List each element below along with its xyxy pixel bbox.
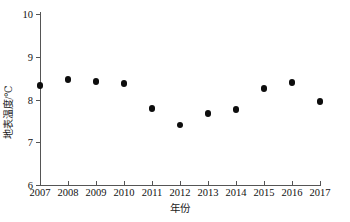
y-tick-label: 10 bbox=[0, 9, 33, 20]
data-point bbox=[261, 85, 267, 91]
x-tick-label: 2007 bbox=[30, 187, 51, 198]
plot-area bbox=[40, 14, 320, 185]
x-tick-label: 2017 bbox=[310, 187, 331, 198]
y-tick bbox=[36, 185, 40, 186]
surface-temperature-scatter-chart: 678910 200720082009201020112012201320142… bbox=[0, 0, 350, 222]
x-tick-label: 2010 bbox=[114, 187, 135, 198]
data-point bbox=[37, 82, 43, 88]
x-tick-label: 2008 bbox=[58, 187, 79, 198]
data-point bbox=[233, 106, 239, 112]
x-tick-label: 2011 bbox=[142, 187, 163, 198]
x-axis-title: 年份 bbox=[0, 200, 350, 215]
x-tick-label: 2016 bbox=[282, 187, 303, 198]
x-tick-label: 2009 bbox=[86, 187, 107, 198]
data-point bbox=[317, 98, 323, 104]
y-tick-label: 9 bbox=[0, 51, 33, 62]
y-tick-label: 6 bbox=[0, 180, 33, 191]
x-tick-label: 2014 bbox=[226, 187, 247, 198]
x-tick bbox=[320, 181, 321, 185]
data-point bbox=[149, 105, 155, 111]
data-point bbox=[93, 78, 99, 84]
data-point bbox=[177, 122, 183, 128]
x-tick-label: 2013 bbox=[198, 187, 219, 198]
data-point bbox=[65, 76, 71, 82]
x-tick-label: 2015 bbox=[254, 187, 275, 198]
x-tick-label: 2012 bbox=[170, 187, 191, 198]
data-point bbox=[121, 80, 127, 86]
y-axis-title: 地表温度/℃ bbox=[0, 63, 15, 163]
data-point bbox=[289, 79, 295, 85]
data-point bbox=[205, 110, 211, 116]
